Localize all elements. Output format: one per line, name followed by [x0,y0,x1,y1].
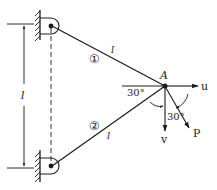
member-2-length-label: l [107,130,110,141]
member-1-label: ① [89,52,100,66]
node-a-label: A [159,69,168,82]
v-label: v [160,133,168,146]
member-1 [52,26,165,86]
truss-diagram: l ① l ② l A 30° u v P 30° [0,0,217,190]
member-1-length-label: l [111,44,114,55]
left-curved-arrow [150,102,163,107]
member-2-label: ② [89,119,100,133]
bottom-wall-support [35,150,59,182]
node-a [163,84,168,89]
u-label: u [201,80,208,93]
load-p-arrow [166,88,189,128]
load-p-label: P [193,127,201,140]
right-curved-arrow [176,94,188,108]
spacing-length-label: l [21,89,25,102]
top-wall-support [35,10,59,41]
member-angle-label: 30° [127,87,145,98]
load-angle-label: 30° [167,111,185,122]
member-2 [52,86,165,166]
